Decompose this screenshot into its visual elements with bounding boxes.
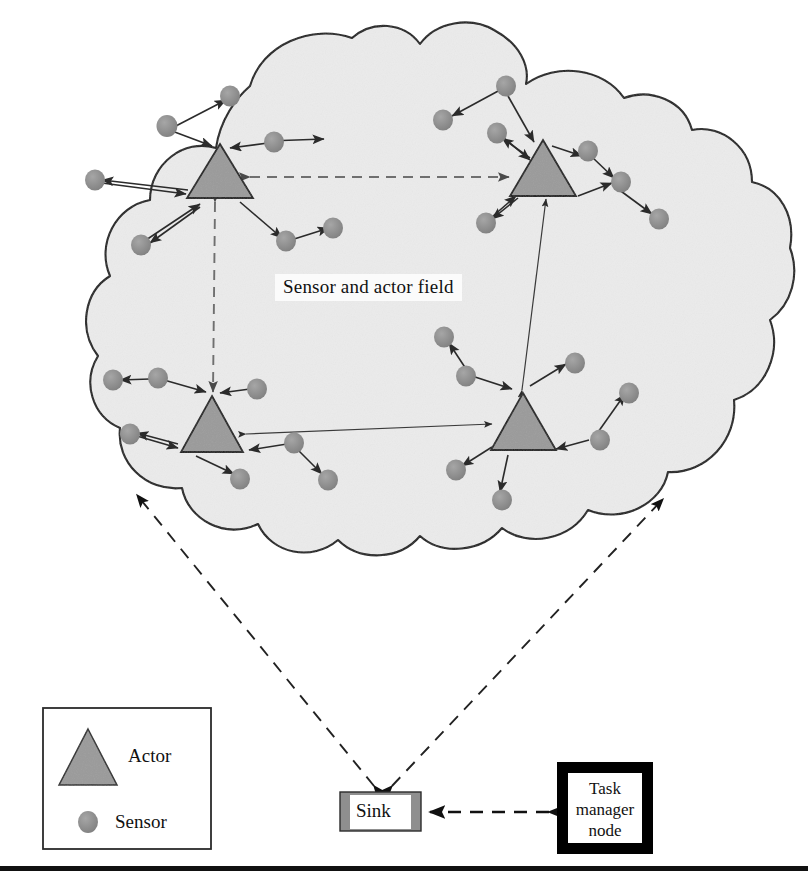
sensor-node — [318, 470, 338, 491]
sensor-node — [323, 218, 343, 239]
sensor-node — [148, 368, 168, 389]
figure-canvas: Sensor and actor field Actor Sensor Sink… — [0, 0, 808, 890]
field-label: Sensor and actor field — [275, 274, 462, 301]
sensor-node — [487, 123, 507, 144]
sensor-node — [611, 172, 631, 193]
sensor-node — [456, 366, 476, 387]
legend-label-actor: Actor — [128, 745, 171, 767]
sensor-node — [85, 170, 105, 191]
task-manager-label-line2: manager — [568, 799, 642, 820]
legend-circle-icon — [78, 811, 98, 833]
sensor-node — [220, 86, 240, 107]
sensor-node — [492, 490, 512, 511]
sensor-node — [284, 433, 304, 454]
sensor-node — [496, 76, 516, 97]
sensor-node — [230, 469, 250, 490]
task-manager-label-line1: Task — [568, 778, 642, 799]
sensor-node — [131, 235, 151, 256]
bottom-rule — [0, 866, 808, 871]
sensor-node — [120, 424, 140, 445]
network-diagram-svg — [0, 0, 808, 890]
sensor-node — [649, 209, 669, 230]
sensor-node — [446, 460, 466, 481]
sensor-node — [247, 379, 267, 400]
task-manager-label: Task manager node — [568, 778, 642, 841]
sensor-node — [157, 115, 178, 137]
sensor-node — [565, 353, 585, 374]
sensor-node — [578, 141, 598, 162]
sensor-node — [619, 383, 639, 404]
sensor-node — [476, 213, 496, 234]
task-manager-label-line3: node — [568, 820, 642, 841]
legend-label-sensor: Sensor — [115, 811, 167, 833]
sensor-node — [103, 370, 123, 391]
sensor-node — [434, 327, 454, 348]
sensor-node — [433, 110, 453, 131]
sensor-node — [590, 430, 610, 451]
sink-label: Sink — [356, 800, 391, 822]
sensor-node — [276, 231, 296, 252]
sensor-node — [264, 132, 284, 153]
